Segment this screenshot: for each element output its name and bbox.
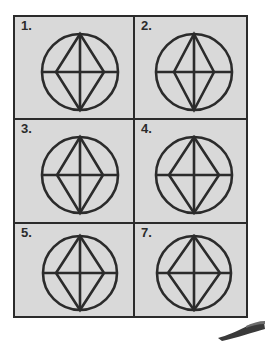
figure-cell[interactable]: 4. bbox=[135, 120, 246, 222]
figure-cell[interactable]: 5. bbox=[15, 224, 133, 316]
circle-rhombus-icon bbox=[152, 133, 236, 217]
figure-cell-label: 3. bbox=[21, 122, 32, 136]
circle-rhombus-icon bbox=[152, 30, 236, 114]
page-root: 1. 2. bbox=[0, 0, 266, 342]
circle-rhombus-icon bbox=[39, 232, 121, 314]
figure-cell-label: 1. bbox=[21, 19, 32, 33]
figure-cell-label: 4. bbox=[141, 122, 152, 136]
figure-cell-label: 2. bbox=[141, 19, 152, 33]
figure-cell[interactable]: 2. bbox=[135, 17, 246, 118]
circle-rhombus-icon bbox=[38, 30, 122, 114]
figure-cell[interactable]: 7. bbox=[135, 224, 246, 316]
figure-cell[interactable]: 1. bbox=[15, 17, 133, 118]
figures-grid: 1. 2. bbox=[15, 17, 246, 316]
circle-rhombus-icon bbox=[153, 232, 235, 314]
figure-cell-label: 7. bbox=[141, 226, 152, 240]
circle-rhombus-icon bbox=[38, 133, 122, 217]
page-curl-artifact bbox=[216, 320, 266, 342]
figure-cell[interactable]: 3. bbox=[15, 120, 133, 222]
figures-plate: 1. 2. bbox=[13, 15, 248, 318]
figure-cell-label: 5. bbox=[21, 226, 32, 240]
